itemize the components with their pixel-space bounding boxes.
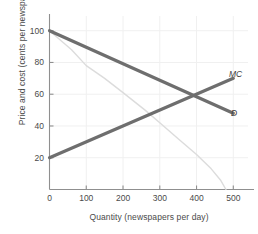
x-tick-label: 200 [103, 193, 143, 203]
x-tick-label: 100 [66, 193, 106, 203]
chart-figure: 20406080100 0100200300400500 Price and c… [0, 0, 258, 234]
x-tick-label: 400 [177, 193, 217, 203]
x-axis-title: Quantity (newspapers per day) [49, 212, 249, 222]
x-tick-labels: 0100200300400500 [0, 0, 258, 234]
x-tick-label: 300 [140, 193, 180, 203]
x-tick-label: 0 [30, 193, 70, 203]
series-label-mc: MC [229, 69, 242, 79]
x-tick-label: 500 [213, 193, 253, 203]
series-label-d: D [231, 108, 237, 118]
y-axis-title: Price and cost (cents per newspaper) [17, 0, 27, 133]
